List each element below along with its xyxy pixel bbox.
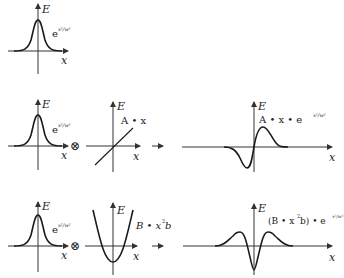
result-label-exponent: x²/w²	[313, 112, 326, 118]
y-axis-label: E	[41, 98, 50, 111]
result-label-mid: b) • e	[300, 216, 326, 226]
linear-label: A • x	[120, 115, 146, 126]
result-label-prefix: (B • x	[268, 216, 294, 226]
row3-gaussian-plot: E x e x²/w²	[8, 200, 71, 272]
gaussian-label-exponent: x²/w²	[58, 122, 71, 128]
row2-result-plot: E x A • x • e x²/w²	[182, 100, 336, 172]
y-axis-label: E	[41, 3, 50, 16]
result-label-exponent: x²/w²	[332, 214, 344, 219]
x-axis-label: x	[61, 249, 68, 262]
row3-result-plot: E x (B • x 2 b) • e x²/w²	[183, 202, 344, 275]
y-axis-label: E	[41, 200, 50, 213]
product-operator: ⊗	[70, 139, 80, 153]
row3-parabola-plot: E x B • x 2 b	[85, 203, 171, 275]
x-axis-label: x	[329, 151, 336, 164]
gaussian-label-exponent: x²/w²	[58, 222, 71, 228]
row2-linear-plot: E x A • x	[86, 100, 146, 172]
row2-gaussian-plot: E x e x²/w²	[8, 98, 71, 170]
result-label: A • x • e	[258, 114, 302, 125]
gaussian-label-exponent: x²/w²	[58, 26, 71, 32]
x-axis-label: x	[61, 149, 68, 162]
x-axis-label: x	[329, 251, 336, 264]
y-axis-label: E	[116, 204, 125, 217]
x-axis-label: x	[61, 54, 68, 67]
y-axis-label: E	[257, 202, 266, 215]
product-operator: ⊗	[70, 239, 80, 253]
x-axis-label: x	[133, 250, 140, 263]
parabola-label-tail: b	[165, 220, 171, 231]
y-axis-label: E	[116, 100, 125, 113]
x-axis-label: x	[133, 150, 140, 163]
diagram-canvas: E x e x²/w² E x e x²/w² ⊗ E x A • x E x …	[0, 0, 344, 278]
parabola-label: B • x	[135, 220, 162, 231]
y-axis-label: E	[257, 100, 266, 113]
row1-gaussian-plot: E x e x²/w²	[8, 3, 71, 74]
